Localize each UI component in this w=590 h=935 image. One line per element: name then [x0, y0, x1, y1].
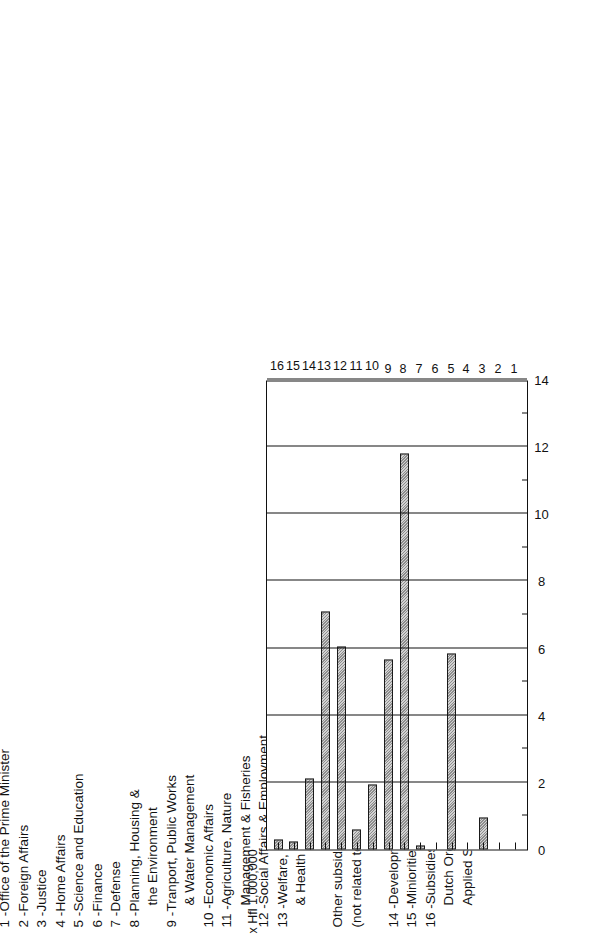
legend-item-10-label: Economic Affairs: [201, 803, 216, 903]
minor-tick-13: [522, 412, 528, 413]
minor-tick-11: [522, 479, 528, 480]
legend-item-2: 2 -Foreign Affairs: [15, 729, 34, 927]
legend-item-3-num: 3 -: [33, 911, 52, 927]
category-tick-label-1: 1: [507, 365, 521, 372]
minor-tick-9: [522, 546, 528, 547]
category-label-5: 5: [447, 362, 454, 376]
legend-item-6-num: 6 -: [89, 911, 108, 927]
legend-item-9-num: 9 -: [163, 911, 182, 927]
legend-item-5-label: Science and Education: [71, 773, 86, 911]
value-tick-label-0: 0: [538, 843, 545, 858]
chart-legend: 1 -Office of the Prime Minister 2 -Forei…: [0, 0, 252, 935]
gridline-10: [267, 512, 527, 513]
gridline-14: [267, 378, 527, 379]
legend-item-1-num: 1 -: [0, 911, 15, 927]
category-tick-11: [357, 842, 358, 849]
category-label-15: 15: [286, 358, 300, 372]
bar-category-12: [337, 646, 346, 849]
legend-item-7-label: Defense: [108, 861, 123, 911]
category-label-7: 7: [416, 362, 423, 376]
value-tick-8: 8: [534, 578, 549, 585]
legend-item-4: 4 -Home Affairs: [52, 729, 71, 927]
category-tick-3: [483, 842, 484, 849]
legend-item-3: 3 -Justice: [33, 729, 52, 927]
bar-category-14: [305, 779, 314, 850]
legend-item-9-label: Tranport, Public Works: [164, 774, 179, 911]
legend-item-7-num: 7 -: [107, 911, 126, 927]
legend-item-2-label: Foreign Affairs: [16, 824, 31, 911]
category-tick-6: [436, 842, 437, 849]
category-tick-15: [294, 842, 295, 849]
legend-item-1-label: Office of the Prime Minister: [0, 748, 12, 911]
gridline-4: [267, 714, 527, 715]
value-tick-14: 14: [534, 373, 549, 387]
legend-item-4-label: Home Affairs: [53, 834, 68, 911]
category-tick-12: [341, 842, 342, 849]
legend-item-10-num: 10 -: [200, 904, 219, 927]
legend-item-2-num: 2 -: [15, 911, 34, 927]
category-label-10: 10: [365, 358, 379, 372]
category-label-8: 8: [400, 362, 407, 376]
value-tick-12: 12: [534, 440, 549, 454]
category-tick-label-10: 10: [365, 358, 379, 372]
bar-category-9: [384, 659, 393, 849]
category-tick-label-7: 7: [412, 365, 426, 372]
category-tick-label-12: 12: [333, 358, 347, 372]
legend-item-8-label: Planning, Housing &: [127, 789, 142, 911]
legend-item-3-label: Justice: [34, 869, 49, 911]
legend-item-9: 9 -Tranport, Public Works: [163, 729, 182, 927]
category-tick-label-4: 4: [459, 365, 473, 372]
category-tick-14: [310, 842, 311, 849]
category-label-2: 2: [495, 362, 502, 376]
category-label-9: 9: [384, 362, 391, 376]
value-tick-10: 10: [534, 507, 549, 521]
legend-item-9-label-cont: & Water Management: [181, 729, 200, 927]
category-tick-13: [325, 842, 326, 849]
legend-item-8-num: 8 -: [126, 911, 145, 927]
category-tick-5: [452, 842, 453, 849]
category-label-13: 13: [317, 358, 331, 372]
bar-chart: x Hfl 1,000,000 02468101214 123456789101…: [262, 0, 562, 935]
category-label-14: 14: [302, 358, 316, 372]
value-tick-label-12: 12: [534, 440, 548, 455]
legend-item-7: 7 -Defense: [107, 729, 126, 927]
category-tick-label-11: 11: [349, 359, 363, 372]
category-tick-label-5: 5: [444, 365, 458, 372]
legend-item-5: 5 -Science and Education: [70, 729, 89, 927]
legend-item-1: 1 -Office of the Prime Minister: [0, 729, 15, 927]
category-tick-10: [373, 842, 374, 849]
category-tick-2: [499, 842, 500, 849]
value-tick-2: 2: [534, 779, 549, 786]
value-tick-4: 4: [534, 712, 549, 719]
gridline-12: [267, 445, 527, 446]
category-tick-8: [404, 842, 405, 849]
gridline-8: [267, 579, 527, 580]
category-tick-4: [467, 842, 468, 849]
legend-item-6-label: Finance: [90, 863, 105, 911]
bar-category-5: [447, 653, 456, 849]
category-label-1: 1: [510, 362, 517, 376]
value-tick-0: 0: [534, 846, 549, 853]
minor-tick-1: [522, 814, 528, 815]
legend-item-6: 6 -Finance: [89, 729, 108, 927]
value-tick-label-4: 4: [538, 708, 545, 723]
category-tick-label-2: 2: [491, 365, 505, 372]
category-tick-16: [278, 842, 279, 849]
category-tick-label-6: 6: [428, 365, 442, 372]
category-tick-9: [389, 842, 390, 849]
bar-category-10: [368, 784, 377, 849]
category-tick-label-14: 14: [302, 358, 316, 372]
category-label-6: 6: [431, 362, 438, 376]
legend-item-8: 8 -Planning, Housing &: [126, 729, 145, 927]
category-tick-label-13: 13: [317, 358, 331, 372]
category-tick-label-15: 15: [286, 358, 300, 372]
category-label-3: 3: [479, 362, 486, 376]
category-tick-label-8: 8: [396, 365, 410, 372]
category-tick-1: [515, 842, 516, 849]
legend-item-11-num: 11 -: [218, 905, 237, 927]
value-tick-label-2: 2: [538, 775, 545, 790]
category-label-12: 12: [333, 358, 347, 372]
legend-item-11: 11 -Agriculture, Nature: [218, 729, 237, 927]
legend-item-5-num: 5 -: [70, 911, 89, 927]
rotated-figure-stage: 1 -Office of the Prime Minister 2 -Forei…: [0, 0, 590, 935]
